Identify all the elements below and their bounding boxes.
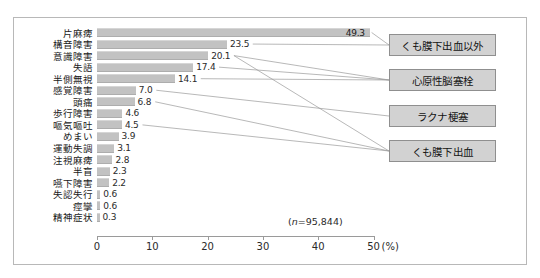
axis-tick-label: 0 (94, 241, 100, 252)
axis-tick-label: 40 (312, 241, 325, 252)
value-label: 0.6 (103, 201, 117, 211)
chart-row: 失認失行0.6 (14, 189, 528, 200)
category-label: 嘔気嘔吐 (13, 119, 93, 130)
chart-row: 嚥下障害2.2 (14, 177, 528, 188)
category-label: 頭痛 (13, 96, 93, 107)
bar (97, 28, 370, 37)
sample-size-annotation: (n=95,844) (288, 216, 343, 227)
callout-box[interactable]: くも膜下出血以外 (389, 34, 496, 56)
axis-tick (97, 236, 98, 240)
value-label: 23.5 (230, 39, 249, 49)
chart-row: 半盲2.3 (14, 166, 528, 177)
axis-tick-label: 20 (201, 241, 214, 252)
category-label: 半側無視 (13, 73, 93, 84)
callout-box[interactable]: くも膜下出血 (389, 140, 496, 162)
axis-tick (318, 236, 319, 240)
axis-tick-label: 50 (367, 241, 380, 252)
axis-tick (374, 236, 375, 240)
value-label: 7.0 (139, 85, 153, 95)
category-label: 半盲 (13, 166, 93, 177)
callout-box[interactable]: 心原性脳塞栓 (389, 69, 496, 91)
bar (97, 51, 208, 60)
bar (97, 40, 227, 49)
category-label: 失認失行 (13, 189, 93, 200)
bar (97, 167, 110, 176)
axis-tick-label: 30 (257, 241, 270, 252)
value-label: 14.1 (178, 74, 197, 84)
category-label: 歩行障害 (13, 108, 93, 119)
category-label: 精神症状 (13, 212, 93, 223)
chart-row: 痙攣0.6 (14, 200, 528, 211)
callout-box[interactable]: ラクナ梗塞 (389, 105, 496, 127)
value-label: 3.1 (117, 143, 131, 153)
axis-tick (152, 236, 153, 240)
bar (97, 63, 193, 72)
bar (97, 109, 122, 118)
value-label: 4.6 (125, 108, 139, 118)
bar (97, 201, 100, 210)
category-label: 意識障害 (13, 50, 93, 61)
x-axis-unit-label: (%) (382, 241, 399, 252)
value-label: 2.2 (112, 178, 126, 188)
x-axis-line (97, 236, 374, 237)
chart-row: 精神症状0.3 (14, 212, 528, 223)
value-label: 4.5 (125, 120, 139, 130)
bar (97, 178, 109, 187)
bar (97, 155, 112, 164)
bar (97, 97, 135, 106)
category-label: 痙攣 (13, 200, 93, 211)
value-label: 3.9 (122, 131, 136, 141)
category-label: 失語 (13, 62, 93, 73)
axis-tick (263, 236, 264, 240)
category-label: 運動失調 (13, 143, 93, 154)
axis-tick (208, 236, 209, 240)
value-label: 6.8 (138, 97, 152, 107)
axis-tick-label: 10 (146, 241, 159, 252)
figure-frame: 片麻痺49.3構音障害23.5意識障害20.1失語17.4半側無視14.1感覚障… (13, 17, 527, 265)
bar (97, 120, 122, 129)
value-label: 0.3 (103, 212, 117, 222)
bar (97, 190, 100, 199)
value-label: 0.6 (103, 189, 117, 199)
bar (97, 74, 175, 83)
category-label: 注視麻痺 (13, 154, 93, 165)
bar (97, 132, 119, 141)
bar (97, 86, 136, 95)
category-label: 構音障害 (13, 39, 93, 50)
value-label: 20.1 (211, 51, 230, 61)
value-label: 17.4 (196, 62, 215, 72)
category-label: 嚥下障害 (13, 177, 93, 188)
value-label: 49.3 (346, 28, 365, 38)
category-label: 感覚障害 (13, 85, 93, 96)
category-label: めまい (13, 131, 93, 142)
bar (97, 144, 114, 153)
bar (97, 213, 100, 222)
value-label: 2.3 (113, 166, 127, 176)
category-label: 片麻痺 (13, 27, 93, 38)
value-label: 2.8 (115, 155, 129, 165)
